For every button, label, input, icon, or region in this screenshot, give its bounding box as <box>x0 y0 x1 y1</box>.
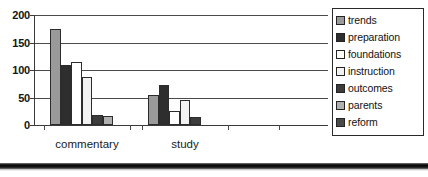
x-tick-mark <box>44 125 45 130</box>
bar <box>82 77 93 125</box>
legend-item: preparation <box>336 29 423 46</box>
legend-label: parents <box>348 100 382 111</box>
y-tick-label: 50 <box>2 93 30 104</box>
x-tick-mark <box>130 125 131 130</box>
legend-swatch <box>336 118 345 127</box>
chart-legend: trendspreparationfoundationsinstructiono… <box>332 8 424 136</box>
legend-item: outcomes <box>336 80 423 97</box>
legend-label: reform <box>348 117 378 128</box>
x-axis-spine <box>34 125 328 126</box>
legend-label: trends <box>348 15 377 26</box>
legend-label: outcomes <box>348 83 393 94</box>
bar <box>180 100 191 125</box>
legend-swatch <box>336 16 345 25</box>
bar <box>148 95 159 125</box>
y-tick-mark <box>30 43 35 44</box>
gridline <box>34 43 328 44</box>
legend-item: trends <box>336 12 423 29</box>
x-tick-mark <box>279 125 280 130</box>
legend-swatch <box>336 101 345 110</box>
bar <box>92 115 103 125</box>
page-bottom-rule-shadow <box>0 169 428 171</box>
x-axis-group-label: study <box>135 139 235 151</box>
legend-item: parents <box>336 97 423 114</box>
y-tick-label: 200 <box>2 10 30 21</box>
x-tick-mark <box>142 125 143 130</box>
legend-swatch <box>336 33 345 42</box>
legend-item: foundations <box>336 46 423 63</box>
legend-swatch <box>336 67 345 76</box>
plot-area <box>34 15 328 125</box>
bar <box>71 62 82 125</box>
y-tick-mark <box>30 15 35 16</box>
y-tick-label: 150 <box>2 38 30 49</box>
legend-swatch <box>336 84 345 93</box>
bar <box>50 29 61 125</box>
bar <box>103 116 114 125</box>
bar <box>159 85 170 125</box>
y-tick-mark <box>30 70 35 71</box>
y-tick-label: 100 <box>2 65 30 76</box>
legend-label: preparation <box>348 32 400 43</box>
y-tick-mark <box>30 125 35 126</box>
gridline <box>34 15 328 16</box>
legend-item: instruction <box>336 63 423 80</box>
bar <box>169 111 180 125</box>
legend-label: foundations <box>348 49 401 60</box>
legend-item: reform <box>336 114 423 131</box>
legend-label: instruction <box>348 66 395 77</box>
legend-swatch <box>336 50 345 59</box>
bar-chart-figure: 050100150200 commentarystudy trendsprepa… <box>0 0 428 177</box>
x-axis-group-label: commentary <box>37 139 137 151</box>
y-tick-mark <box>30 98 35 99</box>
x-tick-mark <box>228 125 229 130</box>
bar <box>61 65 72 126</box>
bar <box>190 117 201 125</box>
y-axis-tick-labels: 050100150200 <box>2 0 30 177</box>
y-tick-label: 0 <box>2 120 30 131</box>
